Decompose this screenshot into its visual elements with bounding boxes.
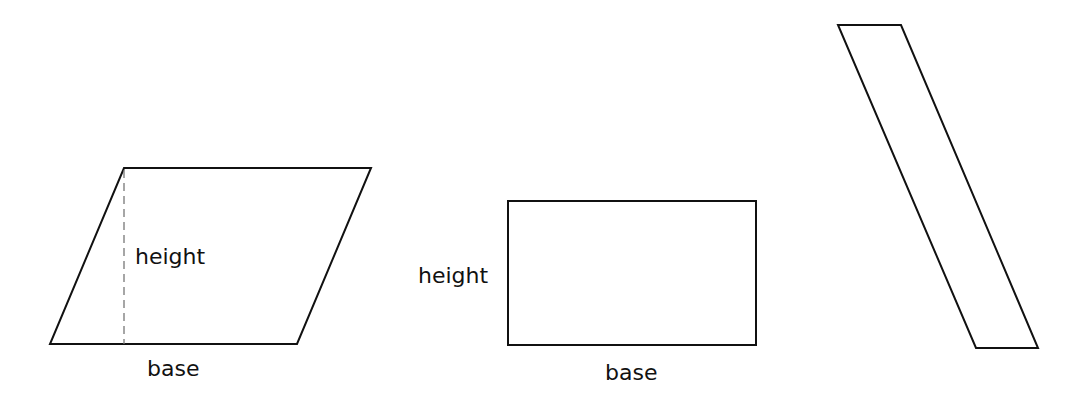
rectangle-shape xyxy=(508,201,756,345)
parallelogram-base-label: base xyxy=(147,356,199,381)
parallelogram-left-shape xyxy=(50,168,371,344)
diagram-canvas: height base height base xyxy=(0,0,1088,411)
parallelogram-with-height: height base xyxy=(50,168,371,381)
rectangle-height-label: height xyxy=(418,263,488,288)
rectangle-figure: height base xyxy=(418,201,756,385)
tall-parallelogram-figure xyxy=(838,25,1038,348)
rectangle-base-label: base xyxy=(605,360,657,385)
parallelogram-right-shape xyxy=(838,25,1038,348)
parallelogram-height-label: height xyxy=(135,244,205,269)
